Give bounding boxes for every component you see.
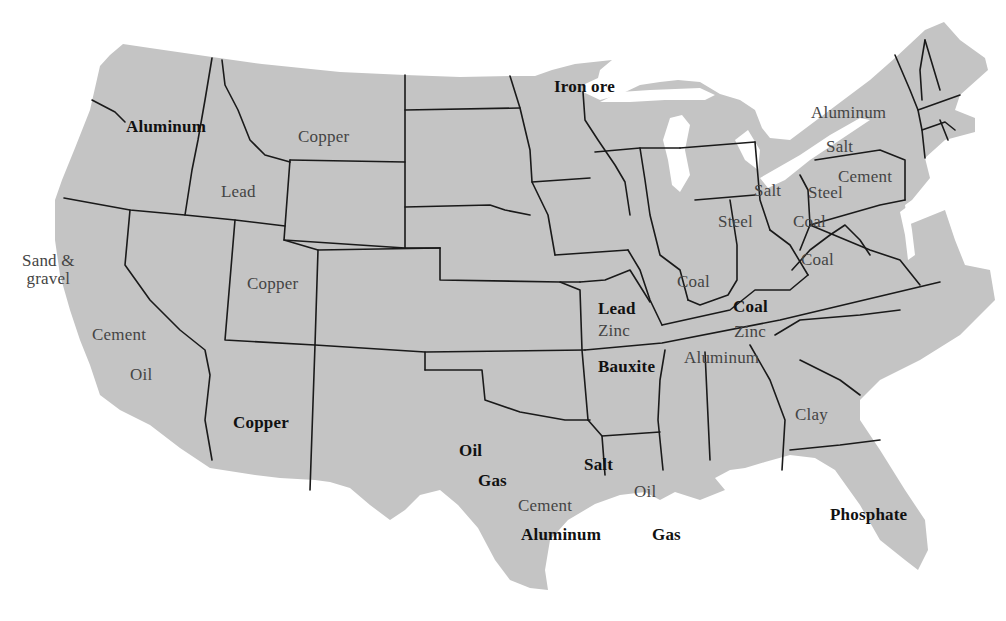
label-az-copper: Copper — [233, 414, 289, 432]
label-tx-aluminum: Aluminum — [521, 526, 601, 544]
label-oh-coal: Coal — [793, 213, 826, 231]
label-wv-coal: Coal — [801, 251, 834, 269]
label-ca-oil: Oil — [130, 366, 152, 384]
label-mo-zinc: Zinc — [598, 322, 630, 340]
label-fl-phosphate: Phosphate — [830, 506, 907, 524]
label-ca-cement: Cement — [92, 326, 146, 344]
label-mn-iron-ore: Iron ore — [554, 78, 615, 96]
label-ny-salt: Salt — [826, 138, 853, 156]
lake-superior — [600, 88, 715, 102]
label-mt-copper: Copper — [298, 128, 349, 146]
label-oh-steel: Steel — [808, 184, 843, 202]
label-la-gas: Gas — [652, 526, 681, 544]
label-wa-aluminum: Aluminum — [126, 118, 206, 136]
label-ga-clay: Clay — [795, 406, 828, 424]
label-tx-gas: Gas — [478, 472, 507, 490]
label-la-oil: Oil — [634, 483, 656, 501]
label-tx-cement: Cement — [518, 497, 572, 515]
label-ar-bauxite: Bauxite — [598, 358, 655, 376]
label-tx-oil: Oil — [459, 442, 482, 460]
us-mineral-resources-map — [0, 0, 1006, 621]
label-mo-lead: Lead — [598, 300, 636, 318]
label-id-lead: Lead — [221, 183, 256, 201]
label-ny-aluminum: Aluminum — [811, 104, 886, 122]
label-ut-copper: Copper — [247, 275, 298, 293]
label-pa-cement: Cement — [838, 168, 892, 186]
label-tn-aluminum: Aluminum — [684, 349, 759, 367]
label-tn-zinc: Zinc — [734, 323, 766, 341]
label-in-steel: Steel — [718, 213, 753, 231]
label-ky-coal: Coal — [733, 298, 768, 316]
label-mi-salt: Salt — [754, 182, 781, 200]
label-il-coal: Coal — [677, 273, 710, 291]
label-ca-sand-gravel: Sand & gravel — [22, 252, 75, 288]
label-la-salt: Salt — [584, 456, 613, 474]
